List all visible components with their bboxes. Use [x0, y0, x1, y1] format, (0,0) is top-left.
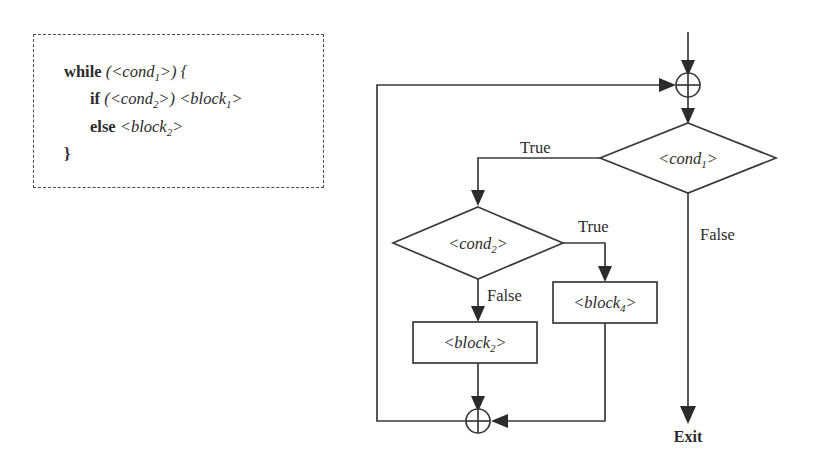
node-cond2-label: <cond2>	[448, 234, 508, 255]
edge-entry	[681, 32, 695, 76]
label-cond1-true: True	[520, 138, 551, 157]
label-cond1-false: False	[700, 225, 735, 244]
edge-cond1-false	[680, 193, 696, 424]
merge-bottom-node	[466, 409, 490, 433]
figure-root: while (<cond1>) { if (<cond2>) <block1> …	[0, 0, 813, 468]
edge-block2-to-merge	[471, 363, 485, 412]
node-block4-label: <block4>	[573, 293, 637, 314]
node-cond1-label: <cond1>	[658, 149, 718, 170]
edge-cond2-true	[563, 243, 612, 282]
edge-cond1-true	[471, 158, 600, 206]
node-cond2: <cond2>	[393, 207, 563, 279]
node-block2: <block2>	[413, 322, 537, 363]
flowchart-svg: <cond1> True False Exit <cond2> True	[0, 0, 813, 468]
edge-merge-to-cond1	[681, 97, 695, 124]
edge-cond2-false	[471, 279, 485, 322]
node-cond1: <cond1>	[600, 123, 776, 193]
node-block4: <block4>	[553, 282, 657, 323]
label-cond2-false: False	[487, 286, 522, 305]
label-cond2-true: True	[578, 217, 609, 236]
node-block2-label: <block2>	[443, 333, 507, 354]
merge-top-node	[676, 73, 700, 97]
exit-label: Exit	[674, 428, 703, 445]
